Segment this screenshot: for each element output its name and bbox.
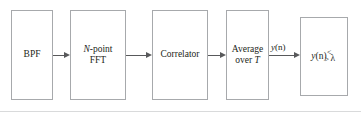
threshold-expression: y(n) < > λ [311, 51, 336, 63]
block-bpf: BPF [11, 10, 53, 100]
block-average-t-symbol: T [254, 55, 259, 65]
block-n-point-fft: N-point FFT [70, 10, 126, 100]
block-average-over-text: over [235, 55, 254, 65]
block-fft-point-text: -point [90, 44, 113, 54]
arrow-correlator-to-average [208, 52, 226, 59]
block-threshold-comparison: y(n) < > λ [300, 17, 348, 96]
arrow-stem [208, 55, 220, 56]
arrow-stem [53, 55, 64, 56]
block-correlator: Correlator [152, 10, 208, 100]
edge-label-n-arg: (n) [275, 42, 286, 52]
arrow-fft-to-correlator [126, 52, 152, 59]
block-average-label: Average over T [230, 44, 265, 66]
block-bpf-label: BPF [22, 49, 43, 60]
block-average-line2: over T [232, 55, 263, 66]
block-diagram-figure: BPF N-point FFT Correlator Average over … [0, 0, 361, 117]
threshold-lambda-symbol: λ [331, 53, 336, 64]
bottom-rule-divider [0, 111, 361, 112]
block-fft-line2: FFT [83, 55, 112, 66]
arrow-average-to-threshold [269, 52, 300, 59]
block-n-point-fft-label: N-point FFT [81, 44, 114, 66]
edge-label-yn: y(n) [271, 42, 286, 52]
arrow-stem [269, 55, 294, 56]
greater-than-symbol: > [325, 57, 330, 63]
arrow-bpf-to-fft [53, 52, 70, 59]
block-correlator-label: Correlator [158, 49, 201, 60]
block-average-line1: Average [232, 44, 263, 54]
arrow-stem [126, 55, 146, 56]
block-average-over-t: Average over T [226, 10, 269, 100]
